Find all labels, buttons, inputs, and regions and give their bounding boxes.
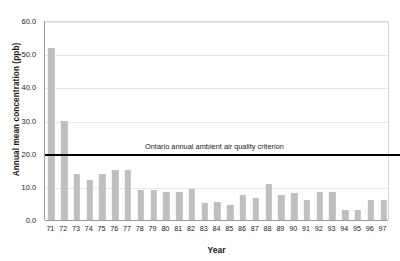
- bar-slot: [71, 22, 84, 220]
- bar-slot: [45, 22, 58, 220]
- bar-slot: [109, 22, 122, 220]
- x-tick-label: 86: [238, 224, 246, 233]
- x-tick-label: 81: [174, 224, 182, 233]
- bar: [214, 202, 220, 220]
- bar-slot: [313, 22, 326, 220]
- x-tick-label: 76: [110, 224, 118, 233]
- bar: [368, 200, 374, 220]
- y-tick-label: 0.0: [26, 216, 36, 225]
- bar: [176, 192, 182, 220]
- gridline-0: [45, 220, 388, 221]
- bar: [265, 184, 271, 220]
- bar-slot: [173, 22, 186, 220]
- y-tick-label: 10.0: [22, 182, 36, 191]
- bar: [99, 174, 105, 220]
- bar-slot: [301, 22, 314, 220]
- x-tick-label: 92: [315, 224, 323, 233]
- x-tick-label: 84: [213, 224, 221, 233]
- x-tick-label: 74: [85, 224, 93, 233]
- bar: [87, 180, 93, 220]
- x-tick-label: 94: [340, 224, 348, 233]
- bar: [202, 203, 208, 220]
- y-tick-label: 20.0: [22, 149, 36, 158]
- x-axis-title: Year: [44, 245, 389, 255]
- bar-slot: [58, 22, 71, 220]
- criterion-label: Ontario annual ambient air quality crite…: [145, 142, 284, 151]
- x-tick-label: 77: [123, 224, 131, 233]
- bar: [48, 48, 54, 220]
- bar: [163, 192, 169, 220]
- x-tick-label: 78: [136, 224, 144, 233]
- bar-slot: [134, 22, 147, 220]
- bar: [125, 170, 131, 220]
- y-tick-label: 60.0: [22, 17, 36, 26]
- bar: [138, 190, 144, 220]
- x-tick-label: 87: [251, 224, 259, 233]
- bar: [355, 210, 361, 220]
- y-tick-label: 40.0: [22, 83, 36, 92]
- bar-slot: [275, 22, 288, 220]
- x-tick-label: 71: [46, 224, 54, 233]
- bar: [253, 198, 259, 220]
- bar: [291, 193, 297, 220]
- bar-slot: [186, 22, 199, 220]
- x-tick-label: 95: [353, 224, 361, 233]
- x-axis-tick-labels: 7172737475767778798081828384858687888990…: [44, 224, 389, 238]
- y-tick-label: 50.0: [22, 50, 36, 59]
- bar: [278, 195, 284, 220]
- bar-series: [45, 22, 388, 220]
- x-tick-label: 90: [289, 224, 297, 233]
- bar: [304, 200, 310, 220]
- bar-slot: [262, 22, 275, 220]
- x-tick-label: 80: [161, 224, 169, 233]
- y-tick-label: 30.0: [22, 116, 36, 125]
- x-tick-label: 89: [276, 224, 284, 233]
- x-tick-label: 72: [59, 224, 67, 233]
- bar-slot: [377, 22, 390, 220]
- chart-figure: Annual mean concentration (ppb) 0.010.02…: [0, 0, 400, 261]
- bar-slot: [249, 22, 262, 220]
- x-tick-label: 85: [225, 224, 233, 233]
- x-tick-label: 97: [379, 224, 387, 233]
- bar-slot: [237, 22, 250, 220]
- bar-slot: [160, 22, 173, 220]
- bar-slot: [364, 22, 377, 220]
- bar-slot: [83, 22, 96, 220]
- x-tick-label: 79: [149, 224, 157, 233]
- x-tick-label: 75: [98, 224, 106, 233]
- bar-slot: [96, 22, 109, 220]
- bar: [329, 192, 335, 220]
- bar-slot: [326, 22, 339, 220]
- bar: [342, 210, 348, 220]
- bar: [317, 192, 323, 220]
- bar: [380, 200, 386, 220]
- bar: [227, 205, 233, 220]
- bar-slot: [122, 22, 135, 220]
- x-tick-label: 96: [366, 224, 374, 233]
- x-tick-label: 93: [328, 224, 336, 233]
- bar: [150, 190, 156, 220]
- x-tick-label: 82: [187, 224, 195, 233]
- bar: [240, 195, 246, 220]
- x-tick-label: 83: [200, 224, 208, 233]
- bar-slot: [288, 22, 301, 220]
- bar-slot: [147, 22, 160, 220]
- plot-area: Ontario annual ambient air quality crite…: [44, 21, 389, 220]
- bar: [189, 189, 195, 221]
- bar-slot: [352, 22, 365, 220]
- bar-slot: [198, 22, 211, 220]
- x-tick-label: 91: [302, 224, 310, 233]
- y-axis-tick-labels: 0.010.020.030.040.050.060.0: [0, 21, 40, 220]
- bar: [112, 170, 118, 220]
- bar-slot: [224, 22, 237, 220]
- bar-slot: [211, 22, 224, 220]
- x-tick-label: 88: [264, 224, 272, 233]
- bar-slot: [339, 22, 352, 220]
- bar: [74, 174, 80, 220]
- criterion-line: [45, 154, 400, 156]
- bar: [61, 121, 67, 221]
- x-tick-label: 73: [72, 224, 80, 233]
